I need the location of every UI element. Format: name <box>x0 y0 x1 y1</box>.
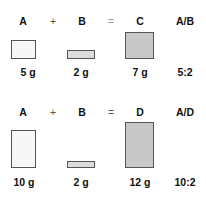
value-ratio: 5:2 <box>177 66 192 78</box>
label-ratio: A/B <box>176 15 194 27</box>
label-a: A <box>19 15 27 27</box>
value-b: 2 g <box>73 66 88 78</box>
box-d <box>125 122 154 168</box>
value-ratio: 10:2 <box>174 176 195 188</box>
label-d: D <box>136 106 144 118</box>
value-c: 7 g <box>132 66 147 78</box>
box-b <box>67 50 95 59</box>
box-a <box>11 130 36 168</box>
label-ratio: A/D <box>176 106 194 118</box>
plus-sign: + <box>50 106 56 118</box>
equals-sign: = <box>108 15 114 27</box>
value-d: 12 g <box>129 176 150 188</box>
box-b <box>67 161 95 168</box>
label-b: B <box>78 106 86 118</box>
box-c <box>125 32 154 59</box>
label-c: C <box>136 15 144 27</box>
value-a: 5 g <box>20 66 35 78</box>
label-a: A <box>19 106 27 118</box>
plus-sign: + <box>50 15 56 27</box>
value-b: 2 g <box>73 176 88 188</box>
label-b: B <box>78 15 86 27</box>
value-a: 10 g <box>13 176 34 188</box>
equals-sign: = <box>108 106 114 118</box>
box-a <box>11 40 36 59</box>
